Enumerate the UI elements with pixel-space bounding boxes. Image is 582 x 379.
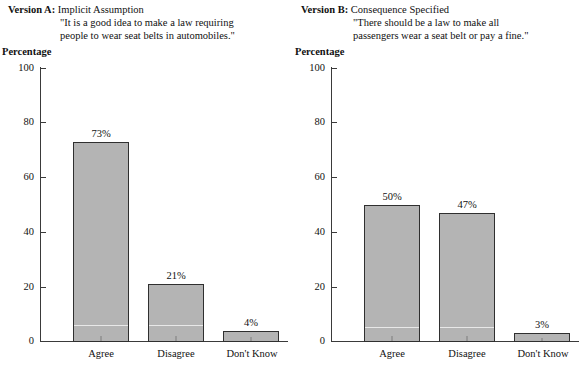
panel-a-ytick-40 [41, 232, 46, 233]
panel-b-category-label-agree: Agree [364, 348, 420, 359]
panel-b-bar-dont-know-base-tick [542, 338, 543, 341]
panel-b-ytick-label-40: 40 [291, 227, 325, 237]
panel-b-bar-disagree-inner-line [440, 327, 494, 328]
panel-a-bar-agree [73, 142, 129, 342]
panel-b-ytick-20 [332, 287, 337, 288]
panel-a-bar-dont-know [223, 331, 279, 342]
panel-b-plot-area: 100 80 60 40 20 0 50% Agree 47% Disagree… [291, 0, 582, 379]
panel-a-category-label-agree: Agree [73, 348, 129, 359]
panel-b-bar-agree [364, 205, 420, 342]
panel-a-ytick-label-60: 60 [0, 172, 34, 182]
panel-b-ytick-label-100: 100 [291, 63, 325, 73]
panel-a-plot-area: 100 80 60 40 20 0 73% Agree 21% Disagree… [0, 0, 291, 379]
panel-b-ytick-label-20: 20 [291, 282, 325, 292]
panel-a-bar-agree-value: 73% [73, 128, 129, 139]
panel-b-bar-disagree [439, 213, 495, 342]
panel-a-bar-disagree-inner-line [149, 325, 203, 326]
panel-b-bar-disagree-base-tick [467, 336, 468, 341]
panel-a-bar-disagree-base-tick [176, 336, 177, 341]
panel-b-ytick-100 [332, 68, 337, 69]
panel-b-category-label-dont-know: Don't Know [507, 348, 579, 359]
panel-a-ytick-80 [41, 122, 46, 123]
panel-b-category-label-disagree: Disagree [437, 348, 497, 359]
panel-a-category-label-dont-know: Don't Know [216, 348, 288, 359]
panel-b-bar-agree-inner-line [365, 327, 419, 328]
panel-b-ytick-label-60: 60 [291, 172, 325, 182]
panel-b-bar-agree-value: 50% [364, 191, 420, 202]
panel-a-ytick-label-40: 40 [0, 227, 34, 237]
panel-a-ytick-60 [41, 177, 46, 178]
panel-a-bar-agree-base-tick [101, 336, 102, 341]
panel-b-bar-agree-base-tick [392, 336, 393, 341]
panel-b-bar-dont-know-value: 3% [514, 319, 570, 330]
panel-version-a: Version A: Implicit Assumption "It is a … [0, 0, 291, 379]
panel-b-bar-dont-know [514, 333, 570, 342]
panel-a-bar-agree-inner-line [74, 325, 128, 326]
panel-b-y-axis-line [331, 67, 332, 342]
panel-a-ytick-100 [41, 68, 46, 69]
panel-a-bar-disagree [148, 284, 204, 342]
panel-a-bar-dont-know-base-tick [251, 337, 252, 341]
panel-b-bar-disagree-value: 47% [439, 199, 495, 210]
panel-a-bar-disagree-value: 21% [148, 270, 204, 281]
panel-b-ytick-40 [332, 232, 337, 233]
panel-b-ytick-80 [332, 122, 337, 123]
panel-a-ytick-20 [41, 287, 46, 288]
panel-b-ytick-label-0: 0 [291, 336, 325, 346]
panel-a-y-axis-line [40, 67, 41, 342]
panel-a-ytick-label-80: 80 [0, 117, 34, 127]
panel-a-ytick-label-20: 20 [0, 282, 34, 292]
panel-a-ytick-label-0: 0 [0, 336, 34, 346]
panel-a-category-label-disagree: Disagree [146, 348, 206, 359]
panel-b-ytick-label-80: 80 [291, 117, 325, 127]
panel-a-ytick-label-100: 100 [0, 63, 34, 73]
panel-a-bar-dont-know-value: 4% [223, 317, 279, 328]
panel-b-ytick-60 [332, 177, 337, 178]
panel-version-b: Version B: Consequence Specified "There … [291, 0, 582, 379]
